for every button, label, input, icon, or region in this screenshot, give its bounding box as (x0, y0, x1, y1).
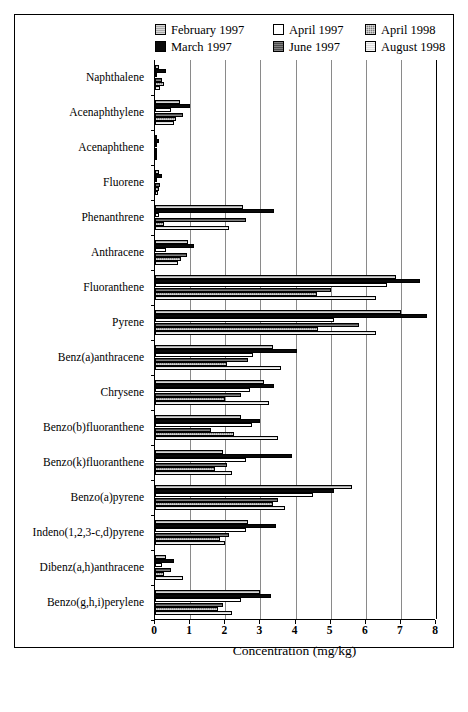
legend-label: April 1997 (289, 24, 344, 36)
y-axis-label: Fluorene (103, 177, 144, 189)
bar (155, 121, 174, 125)
plot-area (154, 60, 435, 620)
bar-groups (155, 60, 435, 619)
y-tick (151, 410, 155, 411)
legend-item: June 1997 (273, 41, 365, 53)
bar (155, 436, 278, 440)
y-tick (151, 585, 155, 586)
x-tick-label: 4 (275, 624, 315, 636)
legend-label: March 1997 (171, 41, 232, 53)
y-tick (151, 340, 155, 341)
y-tick (151, 235, 155, 236)
bar (155, 218, 246, 222)
y-tick (151, 375, 155, 376)
legend-item: August 1998 (365, 41, 445, 53)
bar (155, 366, 281, 370)
y-axis-label: Benzo(g,h,i)perylene (47, 597, 144, 609)
x-tick-label: 5 (310, 624, 350, 636)
y-tick (151, 200, 155, 201)
legend-swatch-icon (365, 41, 376, 52)
x-tick-label: 0 (134, 624, 174, 636)
y-axis-label: Naphthalene (86, 72, 144, 84)
y-tick (151, 165, 155, 166)
bar (155, 226, 229, 230)
bar (155, 611, 232, 615)
gridline (436, 60, 437, 619)
legend-item: February 1997 (155, 24, 273, 36)
bar (155, 296, 376, 300)
y-tick (151, 445, 155, 446)
y-tick (151, 550, 155, 551)
legend-label: August 1998 (381, 41, 445, 53)
bar (155, 541, 225, 545)
y-tick (151, 515, 155, 516)
bar (155, 86, 160, 90)
y-tick (151, 270, 155, 271)
chart-figure: February 1997 April 1997 April 1998 Marc… (14, 14, 454, 648)
chart-legend: February 1997 April 1997 April 1998 Marc… (155, 21, 445, 55)
legend-row: February 1997 April 1997 April 1998 (155, 21, 445, 38)
bar (155, 471, 232, 475)
y-tick (151, 480, 155, 481)
y-axis-label: Pyrene (112, 317, 144, 329)
legend-label: June 1997 (289, 41, 340, 53)
x-tick-label: 6 (345, 624, 385, 636)
y-tick (151, 95, 155, 96)
legend-swatch-icon (155, 41, 166, 52)
legend-swatch-icon (273, 24, 284, 35)
y-axis-category-labels: NaphthaleneAcenaphthyleneAcenaphtheneFlu… (15, 60, 150, 620)
y-axis-label: Phenanthrene (81, 212, 144, 224)
legend-item: April 1998 (365, 24, 445, 36)
y-axis-label: Chrysene (101, 387, 144, 399)
bar (155, 506, 285, 510)
y-axis-label: Benzo(a)pyrene (71, 492, 144, 504)
bar (155, 331, 376, 335)
legend-label: February 1997 (171, 24, 244, 36)
bar (155, 209, 274, 213)
bar (155, 401, 269, 405)
x-axis-title: Concentration (mg/kg) (154, 643, 435, 659)
legend-item: April 1997 (273, 24, 365, 36)
legend-swatch-icon (273, 41, 284, 52)
y-axis-label: Acenaphthene (78, 142, 144, 154)
y-axis-label: Benzo(b)fluoranthene (43, 422, 144, 434)
x-tick-label: 2 (204, 624, 244, 636)
x-tick-label: 3 (239, 624, 279, 636)
bar (155, 191, 158, 195)
x-tick-label: 7 (380, 624, 420, 636)
y-axis-label: Fluoranthene (83, 282, 144, 294)
x-tick-label: 8 (415, 624, 455, 636)
y-axis-label: Benz(a)anthracene (58, 352, 144, 364)
y-axis-label: Dibenz(a,h)anthracene (40, 562, 144, 574)
y-tick (151, 305, 155, 306)
bar (155, 156, 157, 160)
y-axis-label: Benzo(k)fluoranthene (43, 457, 144, 469)
y-tick (151, 130, 155, 131)
legend-row: March 1997 June 1997 August 1998 (155, 38, 445, 55)
legend-swatch-icon (365, 24, 376, 35)
x-tick-label: 1 (169, 624, 209, 636)
x-axis-tick-labels: 012345678 (114, 624, 468, 640)
legend-item: March 1997 (155, 41, 273, 53)
legend-swatch-icon (155, 24, 166, 35)
bar (155, 261, 178, 265)
legend-label: April 1998 (381, 24, 436, 36)
y-axis-label: Acenaphthylene (69, 107, 144, 119)
y-axis-label: Anthracene (91, 247, 144, 259)
y-axis-label: Indeno(1,2,3-c,d)pyrene (33, 527, 144, 539)
bar (155, 576, 183, 580)
